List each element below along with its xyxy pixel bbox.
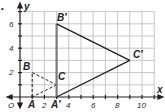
x-tick-4: 4 — [66, 101, 71, 110]
y-tick-4: 4 — [9, 44, 14, 53]
origin-label: O — [8, 101, 14, 110]
vertex-label-c-prime: C′ — [133, 49, 143, 60]
x-tick-8: 8 — [115, 101, 120, 110]
x-tick-10: 10 — [137, 101, 146, 110]
y-axis-label: y — [23, 1, 30, 12]
vertex-label-b-prime: B′ — [57, 12, 67, 23]
vertex-label-b: B — [23, 61, 30, 72]
coordinate-plane: • y x O 6 4 2 2 4 6 8 10 A B C A′ B′ C′ — [0, 0, 165, 112]
x-axis-arrow-right-icon — [158, 95, 163, 99]
x-tick-6: 6 — [91, 101, 96, 110]
bullet: • — [1, 4, 4, 13]
vertex-label-c: C — [58, 71, 66, 82]
y-axis-arrow-down-icon — [18, 103, 22, 108]
y-tick-6: 6 — [9, 20, 14, 29]
x-axis-arrow-left-icon — [7, 95, 12, 99]
y-axis-arrow-up-icon — [18, 3, 22, 8]
vertex-label-a-prime: A′ — [50, 99, 61, 110]
x-tick-2: 2 — [41, 101, 47, 110]
vertex-label-a: A — [27, 99, 35, 110]
y-tick-2: 2 — [8, 68, 14, 77]
x-axis-label: x — [156, 84, 163, 95]
